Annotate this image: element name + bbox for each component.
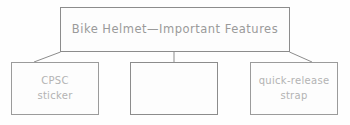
child-node-box-left[interactable]: CPSC sticker [11, 62, 99, 115]
root-node-box: Bike Helmet—Important Features [60, 7, 290, 52]
connector-root-to-left [34, 52, 61, 62]
child-node-label-right: quick-release strap [251, 74, 337, 103]
child-node-label-left: CPSC sticker [12, 74, 98, 103]
diagram-canvas: Bike Helmet—Important Features CPSC stic… [0, 0, 350, 125]
child-node-box-right[interactable]: quick-release strap [250, 62, 338, 115]
root-node-label: Bike Helmet—Important Features [61, 21, 289, 38]
connector-root-to-right [290, 52, 313, 62]
child-node-box-middle[interactable] [130, 62, 218, 115]
